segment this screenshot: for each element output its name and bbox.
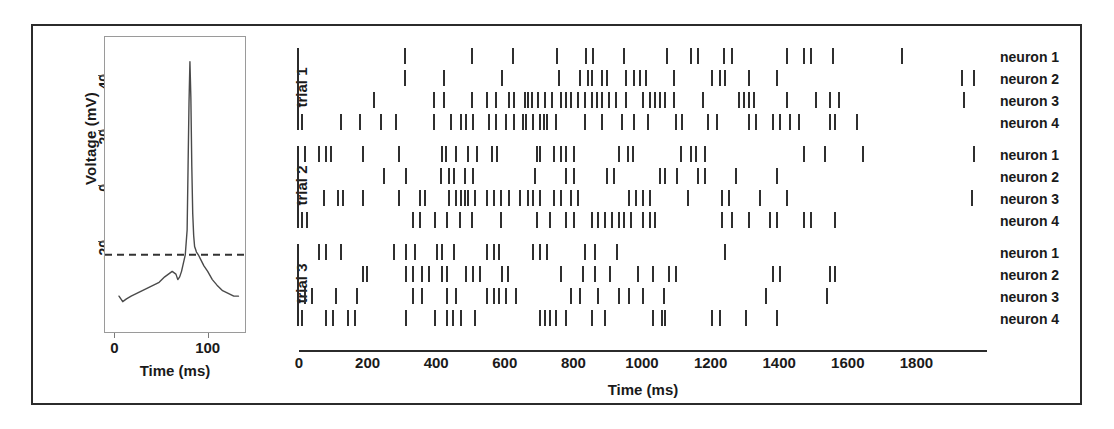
spike-tick	[491, 146, 493, 162]
spike-tick	[493, 288, 495, 304]
spike-tick	[633, 114, 635, 130]
spike-tick	[486, 244, 488, 260]
raster-x-tick-label: 1600	[818, 354, 878, 371]
spike-tick	[549, 212, 551, 228]
spike-tick	[405, 266, 407, 282]
raster-x-tick-label: 200	[338, 354, 398, 371]
spike-train-row	[299, 190, 985, 206]
spike-tick	[738, 92, 740, 108]
spike-tick	[724, 244, 726, 260]
spike-tick	[633, 70, 635, 86]
spike-tick	[464, 190, 466, 206]
spike-tick	[501, 70, 503, 86]
spike-tick	[731, 48, 733, 64]
spike-tick	[810, 212, 812, 228]
waveform-y-axis-ticks: 40200-20	[68, 36, 104, 336]
spike-tick	[690, 146, 692, 162]
spike-tick	[544, 310, 546, 326]
spike-tick	[544, 92, 546, 108]
spike-tick	[441, 146, 443, 162]
spike-tick	[342, 190, 344, 206]
spike-tick	[325, 146, 327, 162]
spike-tick	[719, 70, 721, 86]
waveform-trace-svg	[105, 37, 245, 332]
spike-tick	[803, 48, 805, 64]
spike-tick	[383, 168, 385, 184]
spike-tick	[961, 70, 963, 86]
spike-tick	[362, 190, 364, 206]
neuron-label: neuron 4	[1000, 213, 1059, 229]
spike-tick	[834, 114, 836, 130]
spike-train-row	[299, 48, 985, 64]
raster-x-axis-label: Time (ms)	[299, 381, 987, 398]
spike-tick	[460, 114, 462, 130]
spike-tick	[536, 146, 538, 162]
spike-tick	[452, 310, 454, 326]
spike-tick	[570, 190, 572, 206]
spike-tick	[395, 114, 397, 130]
spike-tick	[642, 92, 644, 108]
spike-tick	[573, 146, 575, 162]
spike-tick	[455, 190, 457, 206]
spike-tick	[803, 212, 805, 228]
spike-tick	[745, 310, 747, 326]
waveform-x-tick-mark	[114, 333, 115, 338]
spike-tick	[560, 190, 562, 206]
spike-tick	[440, 168, 442, 184]
spike-tick	[829, 266, 831, 282]
spike-tick	[546, 114, 548, 130]
spike-tick	[505, 114, 507, 130]
spike-tick	[488, 114, 490, 130]
spike-tick	[471, 212, 473, 228]
spike-tick	[536, 212, 538, 228]
spike-tick	[539, 146, 541, 162]
spike-tick	[515, 288, 517, 304]
spike-train-row	[299, 212, 985, 228]
spike-tick	[604, 212, 606, 228]
spike-tick	[573, 168, 575, 184]
spike-tick	[453, 168, 455, 184]
spike-tick	[611, 212, 613, 228]
spike-tick	[337, 190, 339, 206]
spike-tick	[963, 92, 965, 108]
spike-tick	[625, 92, 627, 108]
spike-tick	[579, 70, 581, 86]
spike-tick	[445, 146, 447, 162]
spike-tick	[304, 288, 306, 304]
spike-tick	[776, 70, 778, 86]
spike-tick	[776, 168, 778, 184]
spike-tick	[539, 310, 541, 326]
spike-tick	[786, 48, 788, 64]
spike-tick	[398, 190, 400, 206]
spike-tick	[642, 212, 644, 228]
spike-tick	[424, 190, 426, 206]
spike-tick	[573, 212, 575, 228]
spike-tick	[616, 244, 618, 260]
spike-tick	[675, 114, 677, 130]
spike-tick	[635, 190, 637, 206]
spike-tick	[716, 114, 718, 130]
spike-tick	[560, 92, 562, 108]
spike-tick	[347, 310, 349, 326]
spike-tick	[659, 168, 661, 184]
spike-tick	[748, 212, 750, 228]
spike-tick	[412, 266, 414, 282]
spike-tick	[433, 92, 435, 108]
spike-tick	[311, 288, 313, 304]
spike-tick	[582, 266, 584, 282]
neuron-label: neuron 2	[1000, 169, 1059, 185]
spike-tick	[304, 146, 306, 162]
spike-tick	[815, 92, 817, 108]
spike-tick	[476, 146, 478, 162]
spike-tick	[642, 190, 644, 206]
spike-tick	[405, 168, 407, 184]
spike-tick	[584, 92, 586, 108]
spike-tick	[728, 190, 730, 206]
spike-tick	[330, 146, 332, 162]
spike-tick	[474, 190, 476, 206]
spike-tick	[618, 212, 620, 228]
raster-x-tick-label: 1200	[681, 354, 741, 371]
spike-tick	[421, 288, 423, 304]
spike-tick	[472, 266, 474, 282]
spike-tick	[555, 310, 557, 326]
